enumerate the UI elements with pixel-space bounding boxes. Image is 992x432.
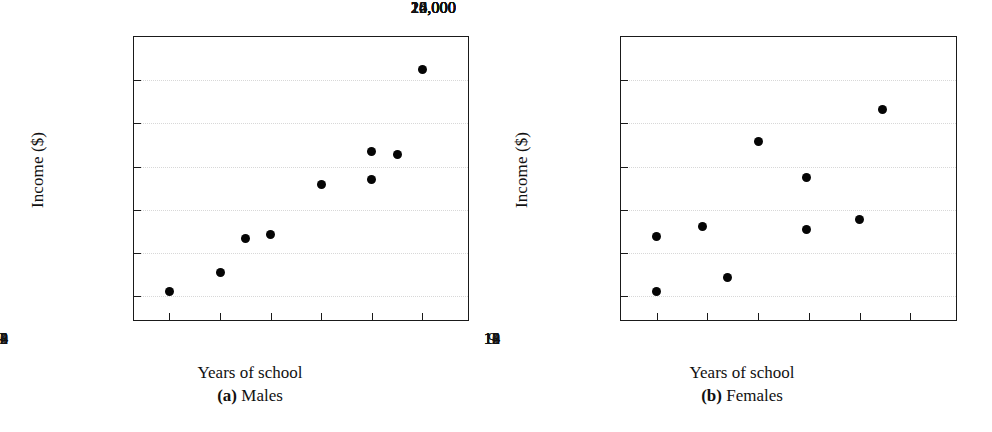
x-axis-tick-label: 14 [0,330,20,348]
data-point [418,65,427,74]
data-point [723,273,732,282]
y-axis-tick [621,123,628,124]
y-axis-tick [134,80,141,81]
panel-caption-a: (a) Males [0,385,500,406]
y-gridline [134,167,468,168]
y-axis-tick [621,80,628,81]
y-axis-tick-label: 26,000 [386,0,456,16]
x-axis-tick [372,313,373,320]
data-point [652,232,661,241]
panel-caption-b: (b) Females [492,385,992,406]
x-axis-tick [657,313,658,320]
y-gridline [621,123,956,124]
chart-panel-females: Income ($) Years of school (b) Females 1… [492,0,992,432]
x-axis-tick [220,313,221,320]
data-point [698,222,707,231]
y-gridline [134,210,468,211]
x-axis-tick [169,313,170,320]
x-axis-title-a: Years of school [0,362,500,383]
y-axis-tick [134,296,141,297]
y-axis-tick [134,167,141,168]
y-gridline [134,253,468,254]
y-gridline [621,210,956,211]
data-point [652,287,661,296]
y-gridline [621,80,956,81]
x-axis-tick [321,313,322,320]
x-axis-tick-label: 14 [472,330,512,348]
plot-area-females [620,36,957,321]
panel-name-b: Females [726,386,783,405]
y-gridline [621,253,956,254]
x-axis-tick [910,313,911,320]
x-axis-tick [860,313,861,320]
panel-letter-a: (a) [217,386,237,405]
data-point [317,180,326,189]
y-axis-tick [621,167,628,168]
y-axis-tick [621,253,628,254]
y-axis-title-b: Income ($) [508,20,536,320]
y-gridline [134,123,468,124]
x-axis-title-b: Years of school [492,362,992,383]
panel-name-a: Males [241,386,283,405]
x-axis-tick [422,313,423,320]
figure-container: Income ($) Years of school (a) Males 14,… [0,0,992,432]
y-gridline [134,296,468,297]
chart-panel-males: Income ($) Years of school (a) Males 14,… [0,0,500,432]
x-axis-tick [707,313,708,320]
y-axis-tick [134,210,141,211]
caption-males: Years of school (a) Males [0,362,500,406]
y-axis-tick [134,253,141,254]
data-point [393,150,402,159]
data-point [165,287,174,296]
y-axis-title-a: Income ($) [24,20,52,320]
y-gridline [621,296,956,297]
y-axis-tick [621,210,628,211]
data-point [266,230,275,239]
data-point [367,175,376,184]
x-axis-tick [271,313,272,320]
data-point [367,147,376,156]
x-axis-tick [809,313,810,320]
data-point [802,173,811,182]
plot-area-males [133,36,469,321]
data-point [802,225,811,234]
y-axis-tick [621,296,628,297]
data-point [878,105,887,114]
data-point [855,215,864,224]
panel-letter-b: (b) [701,386,722,405]
data-point [241,234,250,243]
y-gridline [134,80,468,81]
x-axis-tick [758,313,759,320]
data-point [216,268,225,277]
data-point [754,137,763,146]
y-gridline [621,167,956,168]
caption-females: Years of school (b) Females [492,362,992,406]
y-axis-tick [134,123,141,124]
